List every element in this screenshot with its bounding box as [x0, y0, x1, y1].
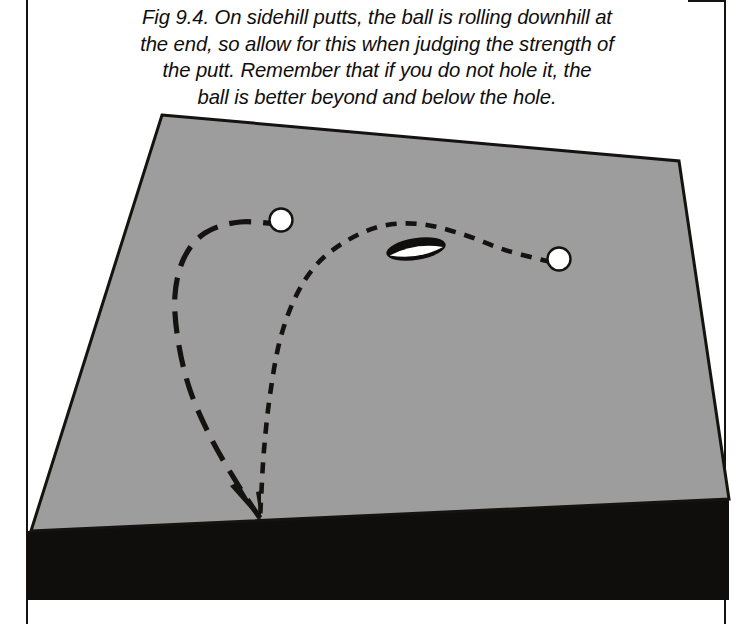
- caption-line-1: Fig 9.4. On sidehill putts, the ball is …: [44, 4, 710, 31]
- caption-line-3: the putt. Remember that if you do not ho…: [44, 57, 710, 84]
- caption-line-2: the end, so allow for this when judging …: [44, 31, 710, 58]
- figure-page: Fig 9.4. On sidehill putts, the ball is …: [0, 0, 748, 624]
- putting-green-surface: [31, 115, 729, 531]
- figure-caption: Fig 9.4. On sidehill putts, the ball is …: [44, 4, 710, 110]
- ball-right-lower: [548, 248, 571, 271]
- green-polygon: [31, 115, 729, 531]
- caption-line-4: ball is better beyond and below the hole…: [44, 84, 710, 111]
- ball-left-upper: [270, 209, 293, 232]
